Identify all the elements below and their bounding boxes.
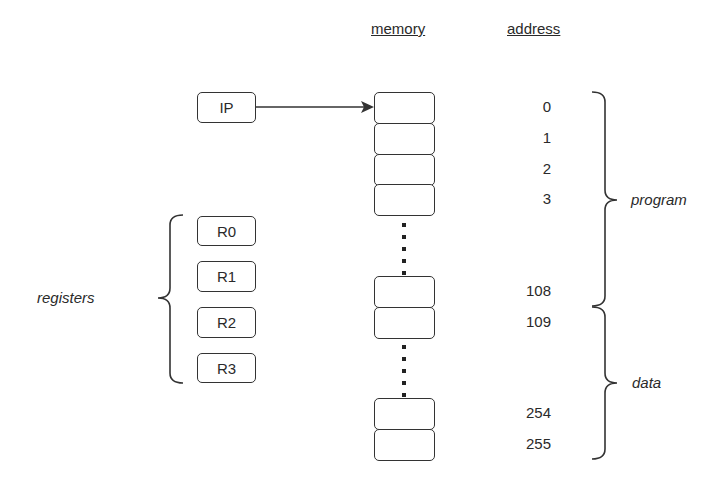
memory-cell-254 <box>374 398 435 430</box>
address-label: 109 <box>491 313 551 330</box>
register-r0: R0 <box>197 216 256 246</box>
memory-cell-108 <box>374 276 435 308</box>
ip-label: IP <box>219 99 233 116</box>
ellipsis-dots-upper <box>402 223 406 275</box>
diagram-connectors <box>0 0 728 484</box>
address-label: 2 <box>491 160 551 177</box>
address-label: 108 <box>491 282 551 299</box>
ip-register: IP <box>197 92 256 123</box>
register-r3: R3 <box>197 353 256 383</box>
memory-cell-1 <box>374 123 435 155</box>
arrow-icon <box>256 101 374 113</box>
program-brace-icon <box>592 92 617 306</box>
address-label: 1 <box>491 129 551 146</box>
memory-cell-0 <box>374 92 435 124</box>
address-label: 0 <box>491 98 551 115</box>
register-r2: R2 <box>197 307 256 338</box>
memory-cell-2 <box>374 154 435 186</box>
memory-cell-3 <box>374 184 435 216</box>
data-brace-icon <box>592 307 617 459</box>
register-label: R2 <box>217 314 236 331</box>
register-r1: R1 <box>197 261 256 292</box>
registers-group-label: registers <box>37 289 95 306</box>
memory-cell-109 <box>374 307 435 339</box>
register-label: R3 <box>217 360 236 377</box>
ellipsis-dots-lower <box>402 345 406 397</box>
address-label: 3 <box>491 190 551 207</box>
registers-brace-icon <box>158 215 183 383</box>
program-segment-label: program <box>631 191 687 208</box>
address-label: 255 <box>491 435 551 452</box>
register-label: R0 <box>217 223 236 240</box>
address-label: 254 <box>491 404 551 421</box>
memory-cell-255 <box>374 429 435 461</box>
register-label: R1 <box>217 268 236 285</box>
data-segment-label: data <box>632 374 661 391</box>
